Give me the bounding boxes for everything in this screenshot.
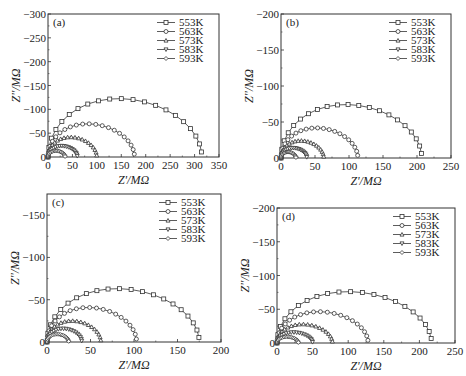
square-marker [54, 127, 58, 131]
circle-marker [283, 322, 287, 326]
square-marker [419, 151, 423, 155]
circle-marker [74, 307, 78, 311]
square-marker [95, 289, 99, 293]
y-tick-label: −250 [23, 32, 46, 44]
y-axis-title: Z''/MΩ [242, 69, 256, 103]
square-marker [403, 304, 407, 308]
square-marker [154, 103, 158, 107]
y-tick-label: −50 [28, 294, 46, 306]
circle-marker [365, 334, 369, 338]
y-tick-label: −50 [29, 127, 47, 139]
circle-marker [353, 145, 357, 149]
circle-marker [366, 338, 370, 342]
triangle-up-marker [309, 141, 313, 145]
circle-marker [131, 148, 135, 152]
panel-label: (d) [282, 210, 295, 223]
square-marker [129, 288, 133, 292]
triangle-up-marker [90, 325, 94, 329]
x-tick-label: 100 [126, 344, 143, 356]
square-marker [53, 315, 57, 319]
triangle-up-marker [293, 323, 297, 327]
triangle-up-marker [67, 319, 71, 323]
circle-marker [106, 126, 110, 130]
square-marker [182, 120, 186, 124]
circle-marker [288, 318, 292, 322]
triangle-up-marker [73, 135, 77, 139]
circle-marker [119, 315, 123, 319]
triangle-up-marker [79, 320, 83, 324]
circle-marker [304, 127, 308, 131]
triangle-up-marker [400, 233, 404, 237]
circle-marker [333, 129, 337, 133]
x-tick-label: 150 [376, 345, 393, 357]
square-marker [151, 293, 155, 297]
triangle-up-marker [59, 321, 63, 325]
circle-marker [81, 122, 85, 126]
x-tick-label: 0 [44, 344, 50, 356]
triangle-up-marker [66, 135, 70, 139]
triangle-up-marker [297, 322, 301, 326]
circle-marker [62, 311, 66, 315]
triangle-up-marker [289, 324, 293, 328]
y-axis-title: Z''/MΩ [9, 68, 23, 102]
triangle-up-marker [318, 326, 322, 330]
y-tick-label: −200 [23, 56, 46, 68]
square-marker [326, 292, 330, 296]
circle-marker [133, 332, 137, 336]
square-marker [191, 321, 195, 325]
circle-marker [310, 126, 314, 130]
square-marker [141, 290, 145, 294]
x-tick-label: 350 [211, 159, 228, 171]
square-marker [403, 124, 407, 128]
circle-marker [68, 309, 72, 313]
circle-marker [350, 319, 354, 323]
y-tick-label: −50 [262, 116, 280, 128]
triangle-up-marker [314, 324, 318, 328]
x-tick-label: 50 [307, 345, 319, 357]
x-axis-title: Z'/MΩ [118, 173, 150, 187]
legend-label: 593K [415, 246, 440, 258]
y-axis-title: Z''/MΩ [238, 258, 252, 292]
circle-marker [355, 149, 359, 153]
circle-marker [290, 134, 294, 138]
x-tick-label: 200 [213, 344, 230, 356]
square-marker [335, 103, 339, 107]
triangle-up-marker [303, 139, 307, 143]
triangle-up-marker [83, 139, 87, 143]
circle-marker [112, 128, 116, 132]
triangle-up-marker [306, 140, 310, 144]
square-marker [173, 113, 177, 117]
x-tick-label: 200 [409, 160, 426, 172]
square-marker [198, 142, 202, 146]
circle-marker [101, 307, 105, 311]
square-marker [166, 201, 170, 205]
circle-marker [122, 135, 126, 139]
square-marker [194, 134, 198, 138]
triangle-up-marker [166, 219, 170, 223]
circle-marker [321, 126, 325, 130]
circle-marker [54, 135, 58, 139]
square-marker [188, 127, 192, 131]
circle-marker [396, 30, 400, 34]
square-marker [315, 294, 319, 298]
x-tick-label: 0 [274, 345, 280, 357]
square-marker [357, 103, 361, 107]
x-tick-label: 100 [89, 159, 106, 171]
circle-marker [363, 330, 367, 334]
y-tick-label: −100 [252, 270, 275, 282]
triangle-down-marker [75, 154, 79, 158]
circle-marker [94, 122, 98, 126]
panel-label: (c) [52, 196, 65, 209]
circle-marker [81, 306, 85, 310]
circle-marker [343, 135, 347, 139]
square-marker [164, 21, 168, 25]
y-tick-label: −200 [256, 8, 279, 20]
square-marker [429, 337, 433, 341]
circle-marker [327, 128, 331, 132]
square-marker [349, 290, 353, 294]
legend-label: 593K [411, 52, 436, 64]
square-marker [86, 102, 90, 106]
y-tick-label: −100 [23, 103, 46, 115]
square-marker [423, 323, 427, 327]
triangle-down-marker [400, 242, 404, 246]
